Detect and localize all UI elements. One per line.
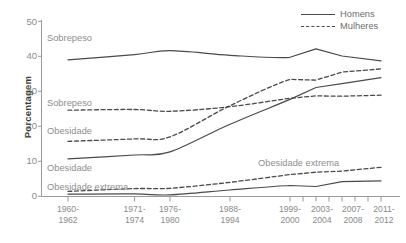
y-tick-marks xyxy=(38,21,42,196)
legend: Homens Mulheres xyxy=(301,9,401,33)
x-tick-marks xyxy=(68,197,381,202)
legend-item-mulheres: Mulheres xyxy=(301,21,401,33)
annotation-obesidade-homens: Obesidade xyxy=(47,163,92,173)
annotation-obesidade-extrema-mulheres: Obesidade extrema xyxy=(258,158,339,168)
series-line-2 xyxy=(68,78,381,159)
legend-dashed-line-icon xyxy=(301,26,335,27)
legend-item-homens: Homens xyxy=(301,9,401,21)
annotation-obesidade-mulheres: Obesidade xyxy=(47,126,92,136)
chart-container: Porcentagem 50 40 30 20 10 0 xyxy=(0,0,406,243)
series-line-3 xyxy=(68,69,381,141)
data-series-layer xyxy=(68,49,381,195)
series-line-0 xyxy=(68,49,381,61)
annotation-sobrepeso-homens: Sobrepeso xyxy=(47,33,92,43)
legend-label-mulheres: Mulheres xyxy=(340,21,378,31)
annotation-obesidade-extrema-homens: Obesidade extrema xyxy=(47,182,128,192)
annotation-sobrepeso-mulheres: Sobrepeso xyxy=(47,98,92,108)
series-line-1 xyxy=(68,95,381,111)
legend-label-homens: Homens xyxy=(340,9,375,19)
legend-solid-line-icon xyxy=(301,14,335,15)
